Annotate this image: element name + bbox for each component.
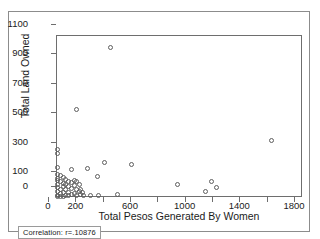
top-bleed-text: ······························ <box>114 0 206 4</box>
scatter-point <box>209 179 214 184</box>
y-tick-label: 900 <box>12 48 28 57</box>
scatter-point <box>55 151 60 156</box>
y-tick-label: 700 <box>12 78 28 87</box>
scatter-point <box>77 182 82 187</box>
chart-page: ······························ Total Lan… <box>0 0 320 239</box>
y-tick-label: 500 <box>12 107 28 116</box>
scatter-point <box>55 165 60 170</box>
page-top-bleed: ······························ <box>0 0 320 7</box>
y-tick-label: 300 <box>12 137 28 146</box>
x-tick-mark <box>212 197 213 202</box>
x-tick-label: 200 <box>55 201 95 210</box>
scatter-point <box>81 193 86 198</box>
y-tick-label: 100 <box>12 166 28 175</box>
y-tick-mark <box>51 24 56 25</box>
plot-area <box>56 35 302 197</box>
scatter-point <box>214 185 219 190</box>
scatter-point <box>175 182 180 187</box>
scatter-point <box>108 45 113 50</box>
x-tick-mark <box>103 197 104 202</box>
y-tick-label: 0 <box>23 181 28 190</box>
x-tick-label: 600 <box>110 201 150 210</box>
scatter-point <box>269 138 274 143</box>
y-axis-title: Total Land Owned <box>19 16 31 136</box>
scatter-point <box>69 167 74 172</box>
scatter-point <box>96 193 101 198</box>
x-tick-label: 1800 <box>274 201 314 210</box>
scatter-point <box>102 160 107 165</box>
x-tick-label: 1000 <box>165 201 205 210</box>
x-tick-mark <box>157 197 158 202</box>
scatter-point <box>74 107 79 112</box>
scatter-point <box>203 189 208 194</box>
x-tick-mark <box>267 197 268 202</box>
scatter-point <box>85 166 90 171</box>
scatter-point <box>95 174 100 179</box>
x-tick-label: 1400 <box>219 201 259 210</box>
scatter-point <box>115 192 120 197</box>
figure-outer-border: Total Land Owned Total Pesos Generated B… <box>8 11 310 232</box>
correlation-text: Correlation: r=.10876 <box>23 228 96 237</box>
scatter-point <box>129 162 134 167</box>
y-tick-label: 1100 <box>8 19 28 28</box>
x-axis-title: Total Pesos Generated By Women <box>56 210 302 222</box>
correlation-annotation: Correlation: r=.10876 <box>18 226 101 239</box>
scatter-point <box>88 193 93 198</box>
